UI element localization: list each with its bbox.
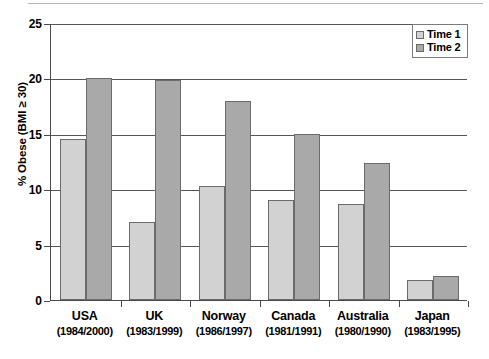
- bar-australia-time-2: [364, 163, 390, 300]
- gridline: [51, 135, 467, 136]
- bar-australia-time-1: [338, 204, 364, 300]
- x-category-label: Australia(1980/1990): [335, 309, 391, 339]
- legend: Time 1 Time 2: [412, 24, 468, 58]
- y-tickmark: [44, 301, 50, 302]
- bar-norway-time-2: [225, 101, 251, 300]
- y-axis-tick-labels: 0510152025: [0, 24, 42, 301]
- y-tick-label: 15: [0, 129, 42, 141]
- x-category-label: USA(1984/2000): [57, 309, 113, 339]
- bar-usa-time-1: [60, 139, 86, 300]
- x-tickmark: [468, 301, 469, 307]
- legend-swatch-time-1: [416, 31, 424, 39]
- x-category-years: (1984/2000): [57, 324, 113, 339]
- x-category-name: UK: [126, 309, 182, 324]
- bar-japan-time-2: [433, 276, 459, 300]
- x-tickmark: [399, 301, 400, 307]
- x-tickmark: [121, 301, 122, 307]
- bar-uk-time-1: [129, 222, 155, 300]
- legend-item-time-1: Time 1: [416, 28, 463, 41]
- x-category-name: Japan: [404, 309, 460, 324]
- x-tickmark: [329, 301, 330, 307]
- x-category-label: Canada(1981/1991): [265, 309, 321, 339]
- y-tick-label: 10: [0, 184, 42, 196]
- y-tickmark: [44, 135, 50, 136]
- y-tickmark: [44, 190, 50, 191]
- y-tick-label: 0: [0, 295, 42, 307]
- x-category-name: Canada: [265, 309, 321, 324]
- y-tick-label: 25: [0, 18, 42, 30]
- bar-canada-time-1: [268, 200, 294, 300]
- bar-japan-time-1: [407, 280, 433, 300]
- bar-uk-time-2: [155, 80, 181, 300]
- x-category-years: (1986/1997): [196, 324, 252, 339]
- legend-label-time-2: Time 2: [427, 42, 460, 53]
- legend-item-time-2: Time 2: [416, 41, 463, 54]
- gridline: [51, 190, 467, 191]
- gridline: [51, 24, 467, 25]
- gridline: [51, 246, 467, 247]
- legend-label-time-1: Time 1: [427, 29, 460, 40]
- plot-area: Time 1 Time 2: [50, 24, 467, 301]
- y-tickmark: [44, 24, 50, 25]
- x-category-label: UK(1983/1999): [126, 309, 182, 339]
- x-category-years: (1983/1995): [404, 324, 460, 339]
- x-category-name: Norway: [196, 309, 252, 324]
- y-tick-label: 20: [0, 73, 42, 85]
- y-tickmark: [44, 79, 50, 80]
- x-category-name: Australia: [335, 309, 391, 324]
- gridline: [51, 79, 467, 80]
- x-tickmark: [260, 301, 261, 307]
- bar-usa-time-2: [86, 78, 112, 300]
- x-category-name: USA: [57, 309, 113, 324]
- x-tickmark: [190, 301, 191, 307]
- obesity-bar-chart: % Obese (BMI ≥ 30) 0510152025 Time 1 Tim…: [0, 0, 489, 359]
- x-category-years: (1983/1999): [126, 324, 182, 339]
- x-axis-category-labels: USA(1984/2000)UK(1983/1999)Norway(1986/1…: [50, 309, 467, 357]
- top-divider-rule: [28, 3, 483, 4]
- x-category-years: (1980/1990): [335, 324, 391, 339]
- bar-norway-time-1: [199, 186, 225, 300]
- bar-canada-time-2: [294, 134, 320, 300]
- x-category-label: Norway(1986/1997): [196, 309, 252, 339]
- y-tickmark: [44, 246, 50, 247]
- y-tick-label: 5: [0, 240, 42, 252]
- x-category-label: Japan(1983/1995): [404, 309, 460, 339]
- legend-swatch-time-2: [416, 44, 424, 52]
- x-category-years: (1981/1991): [265, 324, 321, 339]
